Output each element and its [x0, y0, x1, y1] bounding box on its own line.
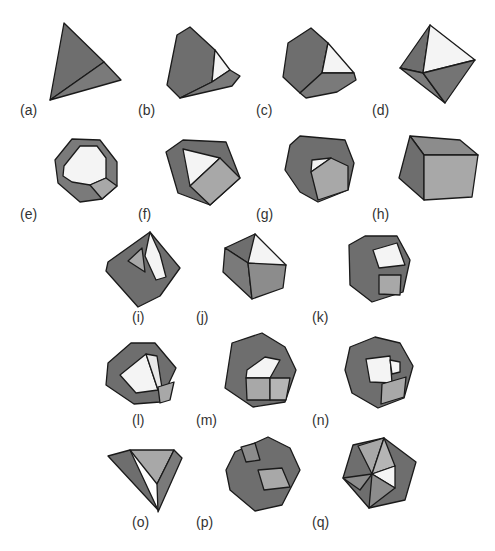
panel-label-g: (g): [256, 207, 273, 221]
shape-o-polyhedron: [108, 450, 182, 512]
shape-n-polyhedron: [345, 337, 413, 408]
panel-label-b: (b): [138, 103, 155, 117]
shape-l-polyhedron: [106, 343, 176, 404]
shape-p-polyhedron: [226, 437, 300, 511]
shape-j-rhombic-dodecahedron: [223, 234, 286, 299]
shape-d-octahedron: [400, 25, 475, 103]
panel-label-j: (j): [196, 310, 208, 324]
panel-label-p: (p): [196, 515, 213, 529]
shape-m-polyhedron: [225, 333, 296, 407]
panel-label-k: (k): [312, 310, 328, 324]
shape-k-polyhedron: [349, 236, 410, 302]
panel-label-l: (l): [132, 413, 144, 427]
panel-label-o: (o): [132, 515, 149, 529]
shape-h-cube: [399, 136, 478, 200]
panel-label-n: (n): [312, 413, 329, 427]
shape-a-tetrahedron: [50, 23, 121, 100]
panel-label-m: (m): [196, 413, 217, 427]
panel-label-f: (f): [138, 207, 151, 221]
panel-label-h: (h): [372, 207, 389, 221]
shape-c-polyhedron: [283, 28, 356, 98]
polyhedra-drawings: [0, 0, 495, 551]
shape-f-polyhedron: [166, 140, 240, 205]
shape-b-truncated-tetrahedron: [167, 27, 240, 98]
shape-i-polyhedron: [106, 232, 180, 307]
shape-q-icosahedron: [343, 438, 416, 508]
shape-e-polyhedron: [55, 139, 117, 202]
polyhedra-figure: (a) (b) (c) (d) (e) (f) (g) (h) (i) (j) …: [0, 0, 495, 551]
panel-label-q: (q): [312, 515, 329, 529]
panel-label-i: (i): [132, 310, 144, 324]
panel-label-a: (a): [20, 103, 37, 117]
panel-label-d: (d): [372, 103, 389, 117]
panel-label-e: (e): [20, 207, 37, 221]
shape-g-truncated-cube: [285, 136, 354, 202]
panel-label-c: (c): [256, 103, 272, 117]
